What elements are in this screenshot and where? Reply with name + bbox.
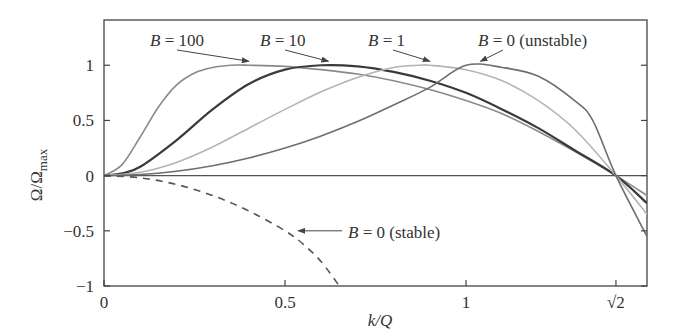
y-tick-label: 0.5	[73, 111, 94, 130]
annotations-layer: B = 100B = 10B = 1B = 0 (unstable)B = 0 …	[150, 31, 587, 242]
series-line-b-10	[104, 65, 647, 203]
x-tick-label: 1	[462, 293, 471, 312]
series-line-b-0-unstable	[104, 64, 647, 236]
x-tick-label: 0	[100, 293, 109, 312]
annotation-arrow	[285, 50, 328, 61]
x-axis-label: k/Q	[368, 311, 393, 330]
annotation-label-value: = 100	[160, 31, 204, 50]
y-axis-label-sub: max	[35, 148, 50, 171]
annotation-label-value: = 10	[270, 31, 305, 50]
annotation-label-var: B	[260, 31, 271, 50]
annotation-label: B = 0 (stable)	[348, 223, 440, 242]
annotation-label-var: B	[368, 31, 379, 50]
x-tick-label: 0.5	[274, 293, 295, 312]
annotation-label-value: = 0 (stable)	[358, 223, 440, 242]
annotation-label: B = 10	[260, 31, 305, 50]
svg-text:Ω/Ωmax: Ω/Ωmax	[27, 148, 50, 201]
annotation-label-var: B	[150, 31, 161, 50]
y-axis-label: Ω/Ωmax	[27, 148, 50, 201]
annotation-label-var: B	[478, 31, 489, 50]
ticks-layer: 00.51√210.50−0.5−1	[63, 56, 647, 312]
annotation-label-var: B	[348, 223, 359, 242]
y-tick-label: −0.5	[63, 222, 94, 241]
plot-border	[104, 20, 647, 286]
y-tick-label: 0	[86, 167, 95, 186]
annotation-arrow	[480, 50, 503, 61]
chart: 00.51√210.50−0.5−1 B = 100B = 10B = 1B =…	[0, 0, 678, 335]
y-axis-label-main: Ω/Ω	[27, 171, 46, 201]
plot-frame	[104, 20, 647, 286]
annotation-arrow	[393, 50, 430, 61]
y-tick-label: 1	[86, 56, 95, 75]
annotation-label-value: = 1	[378, 31, 405, 50]
annotation-label: B = 100	[150, 31, 204, 50]
y-tick-label: −1	[76, 277, 94, 296]
x-tick-label: √2	[607, 293, 625, 312]
annotation-label-value: = 0 (unstable)	[488, 31, 587, 50]
annotation-label: B = 0 (unstable)	[478, 31, 587, 50]
series-layer	[104, 64, 647, 286]
series-line-b-1	[104, 65, 647, 214]
annotation-arrow	[177, 50, 249, 61]
annotation-label: B = 1	[368, 31, 405, 50]
